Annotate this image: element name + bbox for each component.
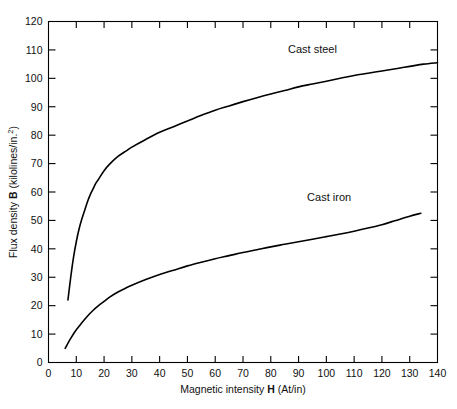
x-axis-title-post: (At/in) [275,383,306,395]
y-tick-label: 10 [31,328,43,340]
y-axis-title-post: (kilolines/in. [7,134,19,192]
y-tick-label: 70 [31,157,43,169]
y-tick-label: 30 [31,271,43,283]
y-tick-label: 120 [25,15,43,27]
x-tick-label: 130 [401,367,419,379]
y-tick-label: 80 [31,129,43,141]
chart-background [0,0,457,409]
x-tick-label: 30 [126,367,138,379]
x-tick-label: 10 [70,367,82,379]
y-tick-label: 40 [31,243,43,255]
y-tick-label: 0 [37,356,43,368]
x-tick-label: 20 [98,367,110,379]
x-tick-label: 70 [237,367,249,379]
y-tick-label: 100 [25,72,43,84]
x-tick-label: 140 [429,367,447,379]
x-tick-label: 50 [182,367,194,379]
bh-curve-chart: 0102030405060708090100110120130140010203… [0,0,457,409]
x-tick-label: 90 [293,367,305,379]
series-label-cast-iron: Cast iron [307,191,351,203]
series-label-cast-steel: Cast steel [288,43,337,55]
y-axis-title-pre: Flux density [7,199,19,258]
x-tick-label: 100 [318,367,336,379]
x-tick-label: 110 [346,367,363,379]
y-tick-label: 20 [31,299,43,311]
chart-canvas: 0102030405060708090100110120130140010203… [0,0,457,409]
y-tick-label: 60 [31,186,43,198]
x-tick-label: 120 [373,367,391,379]
x-tick-label: 60 [209,367,221,379]
x-tick-label: 40 [154,367,166,379]
x-axis-title: Magnetic intensity H (At/in) [180,383,305,395]
x-tick-label: 80 [265,367,277,379]
x-tick-label: 0 [46,367,52,379]
y-axis-title-tail: ) [7,126,19,130]
y-tick-label: 110 [26,44,43,56]
y-axis-title: Flux density B (kilolines/in.2) [5,126,19,258]
y-tick-label: 50 [31,214,43,226]
y-tick-label: 90 [31,101,43,113]
x-axis-title-pre: Magnetic intensity [180,383,267,395]
x-axis-title-symbol: H [267,383,275,395]
